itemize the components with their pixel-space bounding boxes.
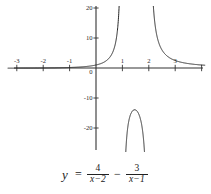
- graph-figure: -3-2-1123-20-1001020: [0, 0, 211, 155]
- x-tick-label-1: 1: [121, 57, 124, 64]
- x-tick-label-2: 2: [147, 57, 150, 64]
- y-tick-label-10: 10: [86, 34, 93, 41]
- function-plot: -3-2-1123-20-1001020: [0, 0, 211, 155]
- term-2-denominator: x−1: [126, 175, 148, 185]
- x-tick-label--1: -1: [67, 57, 73, 64]
- curve-branch-right: [152, 0, 205, 65]
- y-tick-label--10: -10: [84, 94, 93, 101]
- equation-equals-sign: =: [71, 167, 86, 182]
- term-1-denominator: x−2: [87, 175, 109, 185]
- equation-expression: y = 4 x−2 − 3 x−1: [62, 164, 149, 184]
- equation-term-2: 3 x−1: [126, 164, 148, 184]
- x-tick-label--3: -3: [14, 57, 20, 64]
- term-1-numerator: 4: [93, 164, 104, 174]
- equation-minus-sign: −: [110, 167, 125, 182]
- equation-caption: y = 4 x−2 − 3 x−1: [0, 155, 211, 194]
- x-tick-label--2: -2: [40, 57, 46, 64]
- y-tick-label--20: -20: [84, 124, 93, 131]
- y-tick-label-0: 0: [89, 68, 93, 75]
- curve-branch-left: [8, 0, 120, 68]
- equation-lhs: y: [62, 167, 71, 183]
- equation-term-1: 4 x−2: [87, 164, 109, 184]
- y-tick-label-20: 20: [86, 4, 93, 11]
- curve-branch-middle: [124, 110, 146, 155]
- term-2-numerator: 3: [131, 164, 142, 174]
